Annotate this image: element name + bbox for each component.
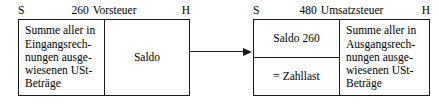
debit-column-umsatzsteuer: Saldo 260 = Zahllast [254,20,340,95]
t-account-vorsteuer: S 260Vorsteuer H Summe aller in Eingangs… [18,2,190,96]
credit-side-label-umsatzsteuer: H [422,2,430,19]
credit-column-vorsteuer: Saldo [105,20,189,95]
debit-zahllast-cell: = Zahllast [254,58,339,95]
debit-zahllast-text: = Zahllast [273,70,319,83]
debit-column-vorsteuer: Summe aller in Eingangsrech- nungen ausg… [19,20,105,95]
credit-saldo-cell: Saldo [105,20,189,95]
debit-entry-cell: Summe aller in Eingangsrech- nungen ausg… [19,20,104,95]
account-title-umsatzsteuer: 480Umsatzsteuer [253,2,430,19]
account-name-umsatzsteuer: Umsatzsteuer [321,4,384,16]
arrow-head-icon [243,48,252,56]
account-number-umsatzsteuer: 480 [300,4,317,16]
t-account-umsatzsteuer: S 480Umsatzsteuer H Saldo 260 = Zahllast… [253,2,430,96]
credit-side-label-vorsteuer: H [182,2,190,19]
credit-column-umsatzsteuer: Summe aller in Ausgangsrech- nungen ausg… [340,20,429,95]
saldo-transfer-arrow [190,48,253,57]
credit-saldo-text: Saldo [134,51,160,64]
credit-entry-text: Summe aller in Ausgangsrech- nungen ausg… [346,24,416,90]
account-body-umsatzsteuer: Saldo 260 = Zahllast Summe aller in Ausg… [253,19,430,96]
credit-entry-cell: Summe aller in Ausgangsrech- nungen ausg… [340,20,429,95]
account-header-vorsteuer: S 260Vorsteuer H [18,2,190,19]
account-number-vorsteuer: 260 [71,4,88,16]
account-header-umsatzsteuer: S 480Umsatzsteuer H [253,2,430,19]
account-title-vorsteuer: 260Vorsteuer [18,2,190,19]
debit-saldo-cell: Saldo 260 [254,20,339,58]
account-name-vorsteuer: Vorsteuer [93,4,137,16]
t-account-diagram: S 260Vorsteuer H Summe aller in Eingangs… [0,0,439,105]
debit-entry-text: Summe aller in Eingangsrech- nungen ausg… [25,24,95,90]
arrow-shaft [190,51,245,52]
debit-saldo-text: Saldo 260 [273,32,319,45]
account-body-vorsteuer: Summe aller in Eingangsrech- nungen ausg… [18,19,190,96]
